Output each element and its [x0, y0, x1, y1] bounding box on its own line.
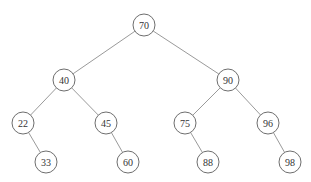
tree-node-88: 88 [197, 151, 219, 173]
node-label: 60 [123, 157, 133, 168]
tree-node-33: 33 [35, 151, 57, 173]
binary-tree-diagram: 7040902245759633608898 [0, 0, 311, 182]
tree-node-22: 22 [12, 112, 34, 134]
node-label: 88 [203, 157, 213, 168]
node-label: 33 [41, 157, 51, 168]
node-label: 90 [223, 75, 233, 86]
edge-96-98 [273, 133, 284, 153]
edge-45-60 [111, 133, 122, 153]
tree-node-60: 60 [117, 151, 139, 173]
node-label: 45 [101, 118, 111, 129]
edge-90-96 [235, 88, 260, 115]
edge-70-40 [73, 31, 135, 74]
edge-75-88 [191, 132, 203, 152]
tree-nodes: 7040902245759633608898 [12, 14, 301, 173]
tree-node-90: 90 [217, 69, 239, 91]
tree-node-96: 96 [257, 112, 279, 134]
edge-70-90 [153, 31, 219, 74]
node-label: 96 [263, 118, 273, 129]
tree-node-70: 70 [133, 14, 155, 36]
edge-40-22 [31, 88, 57, 115]
tree-node-98: 98 [279, 151, 301, 173]
node-label: 70 [139, 20, 149, 31]
tree-node-40: 40 [53, 69, 75, 91]
edge-40-45 [72, 88, 99, 115]
edge-22-33 [29, 132, 41, 152]
edge-90-75 [193, 88, 220, 115]
node-label: 40 [59, 75, 69, 86]
node-label: 75 [180, 118, 190, 129]
node-label: 98 [285, 157, 295, 168]
node-label: 22 [18, 118, 28, 129]
tree-edges [29, 31, 285, 152]
tree-node-45: 45 [95, 112, 117, 134]
tree-node-75: 75 [174, 112, 196, 134]
